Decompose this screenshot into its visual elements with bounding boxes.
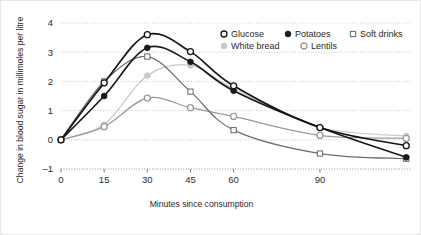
datapoint-lentils-120 bbox=[403, 135, 409, 141]
datapoint-glucose-30 bbox=[144, 32, 150, 38]
y-axis-labels: 43210–1 bbox=[42, 17, 53, 174]
datapoint-soft-drinks-60 bbox=[231, 128, 236, 133]
datapoint-lentils-45 bbox=[187, 105, 193, 111]
datapoint-glucose-15 bbox=[101, 80, 107, 86]
datapoint-soft-drinks-45 bbox=[188, 89, 193, 94]
datapoint-glucose-60 bbox=[231, 83, 237, 89]
xtick-label-0: 0 bbox=[58, 174, 63, 185]
datapoint-potatoes-120 bbox=[403, 154, 409, 160]
ytick-label-3: 3 bbox=[48, 47, 53, 58]
xtick-label-60: 60 bbox=[228, 174, 239, 185]
legend-marker-soft-drinks bbox=[350, 31, 355, 36]
y-axis-title: Change in blood sugar in millimoles per … bbox=[15, 16, 25, 183]
ytick-label-1: 1 bbox=[48, 105, 53, 116]
x-axis-title: Minutes since consumption bbox=[150, 199, 254, 209]
datapoint-lentils-90 bbox=[317, 132, 323, 138]
datapoint-potatoes-45 bbox=[188, 59, 194, 65]
legend-marker-white-bread bbox=[221, 43, 227, 49]
datapoint-white-bread-30 bbox=[144, 73, 150, 79]
xtick-label-90: 90 bbox=[315, 174, 326, 185]
ytick-label-2: 2 bbox=[48, 76, 53, 87]
datapoint-glucose-90 bbox=[317, 125, 323, 131]
ytick-label-4: 4 bbox=[48, 17, 53, 28]
x-axis-ticks: 01530456090 bbox=[58, 169, 325, 185]
chart-figure: 0153045609043210–1Minutes since consumpt… bbox=[0, 0, 421, 235]
legend-marker-lentils bbox=[301, 43, 307, 49]
datapoint-glucose-120 bbox=[403, 143, 409, 149]
legend-item-lentils[interactable]: Lentils bbox=[301, 41, 338, 51]
datapoint-soft-drinks-30 bbox=[145, 54, 150, 59]
datapoint-soft-drinks-90 bbox=[317, 151, 322, 156]
xtick-label-15: 15 bbox=[99, 174, 110, 185]
chart-legend: GlucosePotatoesSoft drinksWhite breadLen… bbox=[221, 29, 403, 51]
datapoint-potatoes-15 bbox=[101, 93, 107, 99]
legend-label-lentils: Lentils bbox=[311, 41, 338, 51]
ytick-label-neg1: –1 bbox=[42, 163, 53, 174]
datapoint-lentils-15 bbox=[101, 124, 107, 130]
legend-item-glucose[interactable]: Glucose bbox=[221, 29, 264, 39]
datapoint-glucose-45 bbox=[187, 49, 193, 55]
datapoint-lentils-30 bbox=[144, 95, 150, 101]
xtick-label-30: 30 bbox=[142, 174, 153, 185]
legend-item-white-bread[interactable]: White bread bbox=[221, 41, 279, 51]
legend-item-potatoes[interactable]: Potatoes bbox=[285, 29, 331, 39]
datapoint-lentils-60 bbox=[231, 113, 237, 119]
legend-label-white-bread: White bread bbox=[231, 41, 280, 51]
legend-label-soft-drinks: Soft drinks bbox=[360, 29, 403, 39]
datapoint-glucose-0 bbox=[58, 137, 64, 143]
series-potatoes bbox=[58, 45, 409, 160]
legend-item-soft-drinks[interactable]: Soft drinks bbox=[350, 29, 403, 39]
series-line-potatoes bbox=[61, 46, 406, 157]
xtick-label-45: 45 bbox=[185, 174, 196, 185]
series-soft-drinks bbox=[58, 54, 408, 161]
blood-sugar-line-chart: 0153045609043210–1Minutes since consumpt… bbox=[1, 1, 421, 235]
datapoint-potatoes-30 bbox=[144, 45, 150, 51]
ytick-label-0: 0 bbox=[48, 134, 53, 145]
legend-label-potatoes: Potatoes bbox=[295, 29, 331, 39]
legend-marker-glucose bbox=[221, 31, 227, 37]
legend-label-glucose: Glucose bbox=[231, 29, 264, 39]
legend-marker-potatoes bbox=[285, 31, 291, 37]
